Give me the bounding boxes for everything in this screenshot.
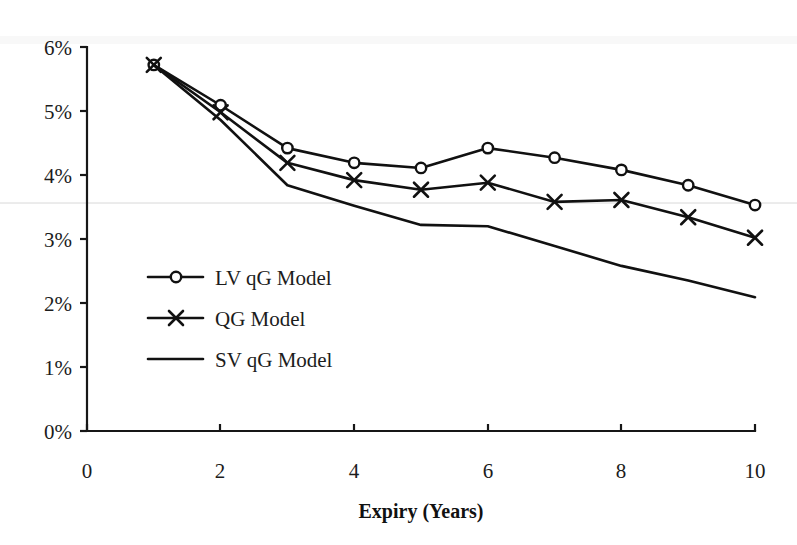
- series-line-1: [154, 65, 755, 238]
- y-tick-label-1: 1%: [44, 356, 72, 380]
- legend-label-0: LV qG Model: [215, 266, 332, 290]
- y-tick-label-3: 3%: [44, 228, 72, 252]
- chart-figure: 6% 5% 4% 3% 2% 1% 0% 0 2 4 6 8 10 Expiry…: [0, 0, 797, 545]
- data-point-marker: [616, 165, 626, 175]
- x-tick-label-6: 6: [483, 459, 494, 483]
- y-tick-label-5: 5%: [44, 100, 72, 124]
- data-point-marker: [483, 143, 493, 153]
- data-point-marker: [748, 231, 762, 245]
- y-tick-label-4: 4%: [44, 164, 72, 188]
- series-qg-model: [147, 58, 762, 245]
- x-tick-label-8: 8: [616, 459, 627, 483]
- y-axis: 6% 5% 4% 3% 2% 1% 0%: [44, 36, 87, 444]
- legend-item-qg-model: QG Model: [148, 307, 306, 331]
- x-axis-title: Expiry (Years): [359, 500, 484, 523]
- y-tick-label-0: 0%: [44, 420, 72, 444]
- x-axis: 0 2 4 6 8 10 Expiry (Years): [82, 424, 766, 523]
- data-point-marker: [683, 180, 693, 190]
- data-point-marker: [349, 158, 359, 168]
- legend-item-sv-qg-model: SV qG Model: [148, 348, 333, 372]
- x-tick-label-0: 0: [82, 459, 93, 483]
- circle-marker-icon: [171, 272, 181, 282]
- data-point-marker: [549, 153, 559, 163]
- legend-item-lv-qg-model: LV qG Model: [148, 266, 332, 290]
- x-tick-label-10: 10: [745, 459, 766, 483]
- series-lv-qg-model: [149, 60, 761, 211]
- data-point-marker: [282, 143, 292, 153]
- scan-noise: [0, 36, 797, 203]
- y-tick-label-6: 6%: [44, 36, 72, 60]
- data-point-marker: [416, 163, 426, 173]
- legend-label-1: QG Model: [215, 307, 306, 331]
- data-point-marker: [750, 200, 760, 210]
- series-line-0: [154, 65, 755, 205]
- line-chart-canvas: 6% 5% 4% 3% 2% 1% 0% 0 2 4 6 8 10 Expiry…: [0, 0, 797, 545]
- legend: LV qG Model QG Model SV qG Model: [148, 266, 333, 372]
- x-tick-label-2: 2: [215, 459, 226, 483]
- x-tick-label-4: 4: [349, 459, 360, 483]
- y-tick-label-2: 2%: [44, 292, 72, 316]
- series-layer: [147, 58, 762, 297]
- legend-label-2: SV qG Model: [215, 348, 333, 372]
